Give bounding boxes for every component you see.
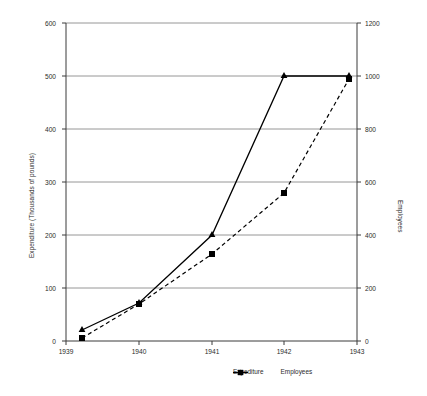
square-marker: [209, 251, 215, 257]
y-axis-right-ticks: [357, 23, 361, 341]
x-axis-tick-label-1943: 1943: [337, 348, 377, 355]
chart-figure: 600 500 400 300 200 100 0 1200 1000 800 …: [0, 0, 427, 396]
y-axis-left-tick-label: 500: [30, 73, 56, 80]
y-axis-right-tick-label: 400: [365, 232, 395, 239]
legend-label-employees: Employees: [281, 368, 313, 375]
y-axis-right-tick-label: 600: [365, 179, 395, 186]
series-line-employees: [82, 79, 349, 338]
y-axis-left-title: Expenditure (Thousands of pounds): [28, 153, 35, 258]
legend-swatch-employees: [233, 368, 248, 377]
x-axis-ticks: [66, 341, 357, 345]
square-marker: [136, 301, 142, 307]
y-axis-left-tick-label: 400: [30, 126, 56, 133]
y-axis-left-tick-label: 0: [30, 338, 56, 345]
y-axis-right-tick-label: 0: [365, 338, 395, 345]
y-axis-left-tick-label: 100: [30, 285, 56, 292]
y-axis-right-tick-label: 800: [365, 126, 395, 133]
y-axis-right-title: Employees: [397, 200, 404, 233]
y-axis-left-tick-label: 600: [30, 20, 56, 27]
series-line-expediture: [82, 76, 349, 330]
square-marker: [346, 76, 352, 82]
square-marker: [281, 190, 287, 196]
x-axis-tick-label-1942: 1942: [264, 348, 304, 355]
y-axis-right-tick-label: 1200: [365, 20, 395, 27]
triangle-marker: [209, 231, 216, 237]
legend-item-employees[interactable]: Employees: [281, 368, 313, 375]
square-marker: [79, 335, 85, 341]
x-axis-tick-label-1941: 1941: [192, 348, 232, 355]
y-axis-right-tick-label: 200: [365, 285, 395, 292]
chart-legend: Expediture Employees: [233, 368, 312, 375]
series-markers-employees: [79, 76, 352, 341]
triangle-marker: [281, 72, 288, 78]
grid-lines: [66, 23, 357, 288]
chart-canvas: [0, 0, 427, 396]
square-marker: [238, 370, 243, 375]
y-axis-left-ticks: [62, 23, 66, 341]
x-axis-tick-label-1940: 1940: [119, 348, 159, 355]
series-markers-expediture: [79, 72, 353, 332]
y-axis-right-tick-label: 1000: [365, 73, 395, 80]
x-axis-tick-label-1939: 1939: [46, 348, 86, 355]
